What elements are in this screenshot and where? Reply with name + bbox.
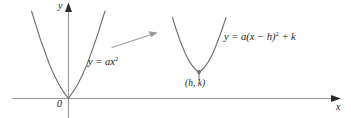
arrow-up-icon: [65, 3, 72, 13]
vertex-coordinate-label: (h, k): [185, 79, 205, 89]
origin-label: 0: [57, 99, 62, 109]
vertex-point-marker: [198, 71, 201, 74]
equation-right-prefix: y = a(x − h): [224, 31, 276, 42]
equation-left-base: y = ax: [88, 56, 115, 67]
equation-left-exponent: 2: [115, 55, 118, 62]
equation-label-left: y = ax2: [88, 57, 118, 68]
y-axis-label: y: [58, 1, 62, 11]
equation-right-suffix: + k: [279, 31, 296, 42]
figure-canvas: [0, 0, 351, 118]
equation-label-right: y = a(x − h)2 + k: [224, 32, 296, 43]
x-axis-label: x: [336, 102, 340, 112]
shift-arrow-icon: [112, 31, 158, 47]
curve-parabola-right: [173, 18, 227, 73]
parabola-translation-figure: y x 0 y = ax2 y = a(x − h)2 + k (h, k): [0, 0, 351, 118]
